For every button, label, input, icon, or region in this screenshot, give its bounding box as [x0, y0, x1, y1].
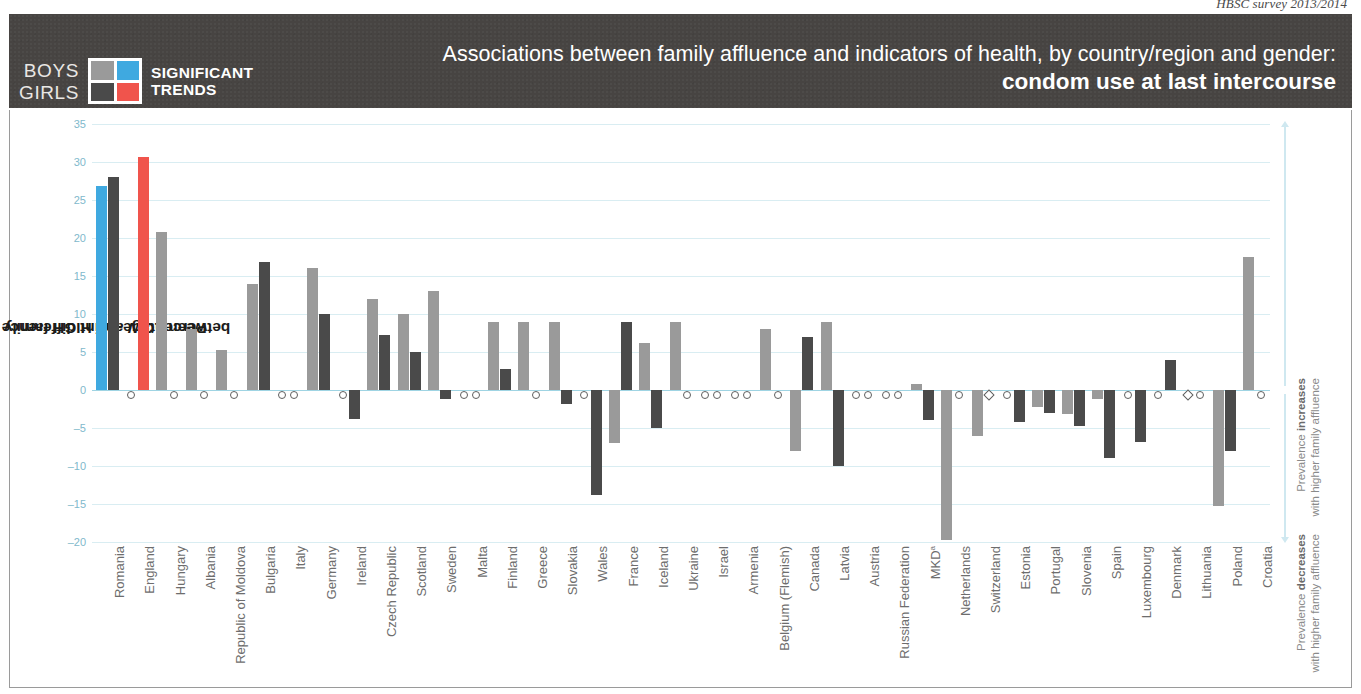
y-axis-tick-5: 5 [80, 346, 86, 358]
gridline--5: –5 [92, 428, 1270, 429]
bar-boys-24 [821, 322, 832, 390]
bar-girls-13 [500, 369, 511, 390]
x-axis-label-22: Belgium (Flemish) [777, 546, 792, 651]
y-axis-tick-10: 10 [74, 308, 86, 320]
legend-row-label-boys: BOYS [19, 61, 79, 80]
x-axis-label-9: Czech Republic [384, 546, 399, 637]
x-axis-labels: RomaniaEnglandHungaryAlbaniaRepublic of … [92, 546, 1270, 686]
x-axis-label-5: Bulgaria [263, 546, 278, 594]
no-trend-marker-circle-boys-16 [580, 391, 588, 399]
x-axis-label-14: Greece [535, 546, 550, 589]
x-axis-label-33: Spain [1109, 546, 1124, 579]
x-axis-label-24: Latvia [837, 546, 852, 581]
no-trend-marker-circle-girls-28 [955, 391, 963, 399]
x-axis-label-31: Portugal [1048, 546, 1063, 594]
decrease-arrow-icon [1284, 394, 1286, 538]
chart-page: HBSC survey 2013/2014 BOYS GIRLS SIGNIFI… [0, 0, 1361, 694]
bar-girls-15 [561, 390, 572, 404]
bar-boys-22 [760, 329, 771, 390]
legend-swatch-boys-nonsignificant [91, 61, 114, 80]
no-trend-marker-circle-girls-25 [864, 391, 872, 399]
x-axis-label-30: Estonia [1018, 546, 1033, 589]
x-axis-label-0: Romania [112, 546, 127, 598]
no-trend-marker-circle-boys-26 [882, 391, 890, 399]
annotation-increase: Prevalence increaseswith higher family a… [1294, 378, 1322, 528]
bar-boys-9 [367, 299, 378, 390]
bar-boys-27 [911, 384, 922, 390]
no-trend-marker-circle-boys-21 [731, 391, 739, 399]
no-trend-marker-circle-girls-2 [170, 391, 178, 399]
bar-boys-37 [1213, 390, 1224, 506]
legend-row-label-girls: GIRLS [19, 83, 79, 102]
bar-girls-31 [1044, 390, 1055, 413]
bar-girls-7 [319, 314, 330, 390]
legend-row-labels: BOYS GIRLS [19, 61, 79, 102]
bar-boys-31 [1032, 390, 1043, 407]
bar-girls-18 [651, 390, 662, 428]
chart-title-block: Associations between family affluence an… [443, 41, 1336, 96]
no-trend-marker-circle-girls-38 [1257, 391, 1265, 399]
bar-girls-1 [138, 157, 149, 390]
legend-swatch-boys-significant [117, 61, 140, 80]
x-axis-label-38: Croatia [1260, 546, 1275, 588]
plot-area: 35302520151050–5–10–15–20 [92, 124, 1270, 542]
x-axis-label-7: Germany [324, 546, 339, 599]
no-trend-marker-circle-boys-20 [701, 391, 709, 399]
gridline--20: –20 [92, 542, 1270, 543]
bar-boys-18 [639, 343, 650, 390]
bar-boys-2 [156, 232, 167, 390]
legend-swatch-girls-significant [117, 83, 140, 102]
no-trend-marker-circle-girls-21 [743, 391, 751, 399]
right-annotations: Prevalence increaseswith higher family a… [1278, 124, 1352, 542]
no-trend-marker-circle-boys-1 [127, 391, 135, 399]
no-trend-marker-diamond-boys-36 [1183, 389, 1194, 400]
bar-boys-29 [972, 390, 983, 436]
bar-boys-7 [307, 268, 318, 390]
x-axis-label-23: Canada [807, 546, 822, 592]
gridline-35: 35 [92, 124, 1270, 125]
x-axis-label-20: Israel [716, 546, 731, 578]
y-axis-tick-30: 30 [74, 156, 86, 168]
bar-boys-17 [609, 390, 620, 443]
x-axis-label-8: Ireland [354, 546, 369, 586]
bar-boys-13 [488, 322, 499, 390]
bar-girls-17 [621, 322, 632, 390]
x-axis-label-25: Austria [867, 546, 882, 586]
bar-boys-38 [1243, 257, 1254, 390]
no-trend-marker-circle-girls-36 [1196, 391, 1204, 399]
no-trend-marker-circle-girls-22 [774, 391, 782, 399]
bar-boys-3 [186, 329, 197, 390]
no-trend-marker-circle-boys-30 [1003, 391, 1011, 399]
bar-boys-5 [247, 284, 258, 390]
bar-girls-34 [1135, 390, 1146, 442]
no-trend-marker-diamond-girls-29 [983, 389, 994, 400]
legend-caption-line2: TRENDS [151, 81, 253, 98]
gridline-30: 30 [92, 162, 1270, 163]
x-axis-label-32: Slovenia [1079, 546, 1094, 596]
no-trend-marker-circle-boys-35 [1154, 391, 1162, 399]
y-axis-tick-25: 25 [74, 194, 86, 206]
y-axis-tick--15: –15 [68, 498, 86, 510]
chart-title-subject: condom use at last intercourse [443, 68, 1336, 96]
bar-boys-0 [96, 186, 107, 390]
bar-girls-33 [1104, 390, 1115, 458]
y-axis-title: Percentage-point difference in prevalenc… [24, 118, 80, 538]
bar-girls-32 [1074, 390, 1085, 426]
bar-boys-14 [518, 322, 529, 390]
x-axis-label-18: Iceland [656, 546, 671, 588]
x-axis-label-1: England [142, 546, 157, 594]
bar-girls-11 [440, 390, 451, 399]
gridline--15: –15 [92, 504, 1270, 505]
x-axis-label-15: Slovakia [565, 546, 580, 595]
bar-girls-37 [1225, 390, 1236, 451]
x-axis-label-37: Poland [1230, 546, 1245, 586]
bar-girls-23 [802, 337, 813, 390]
gridline--10: –10 [92, 466, 1270, 467]
y-axis-tick-0: 0 [80, 384, 86, 396]
bar-boys-15 [549, 322, 560, 390]
bar-boys-23 [790, 390, 801, 451]
y-axis-tick--5: –5 [74, 422, 86, 434]
x-axis-label-2: Hungary [173, 546, 188, 595]
x-axis-label-6: Italy [293, 546, 308, 570]
x-axis-label-34: Luxembourg [1139, 546, 1154, 618]
